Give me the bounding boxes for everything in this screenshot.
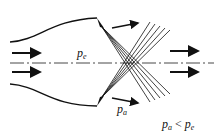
label-pressure-condition: pa < pe [162, 118, 194, 132]
expansion-fan-lower [102, 22, 170, 97]
label-ambient-pressure: pa [117, 103, 127, 117]
nozzle-upper-wall [10, 18, 97, 42]
lower-lip [97, 96, 104, 106]
expansion-fan-upper [102, 27, 170, 102]
upper-lip [97, 18, 104, 28]
jet-arrow-upper [112, 23, 138, 28]
label-exit-pressure: pe [77, 47, 87, 61]
nozzle-lower-wall [10, 84, 97, 106]
